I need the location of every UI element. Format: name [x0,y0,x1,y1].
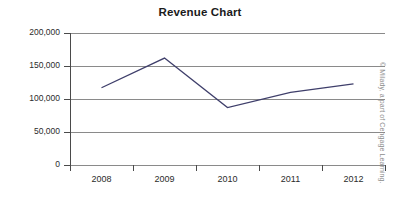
x-axis-label: 2010 [196,174,259,184]
y-axis-tick [64,33,71,34]
x-axis-tick [322,165,323,171]
gridline [70,99,385,100]
chart-title: Revenue Chart [0,6,400,18]
chart-figure: Revenue Chart 050,000100,000150,000200,0… [0,0,414,204]
y-axis-tick [64,99,71,100]
copyright-credit: © Milady, a part of Cengage Learning. [379,62,386,194]
y-axis-label: 50,000 [4,126,60,136]
x-axis-label: 2012 [322,174,385,184]
x-axis-tick [70,165,71,171]
gridline [70,165,385,166]
y-axis-label: 200,000 [4,27,60,37]
gridline [70,66,385,67]
x-axis-tick [196,165,197,171]
x-axis-label: 2009 [133,174,196,184]
y-axis-label: 0 [4,159,60,169]
y-axis-tick [64,132,71,133]
x-axis-tick [259,165,260,171]
x-axis-label: 2011 [259,174,322,184]
x-axis-label: 2008 [70,174,133,184]
gridline [70,132,385,133]
x-axis-tick [133,165,134,171]
y-axis-label: 100,000 [4,93,60,103]
y-axis-label: 150,000 [4,60,60,70]
y-axis-tick [64,66,71,67]
gridline [70,33,385,34]
plot-area [70,33,385,165]
